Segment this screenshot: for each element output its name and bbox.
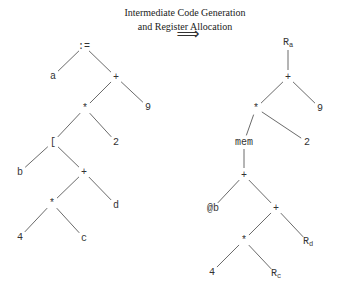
tree-edge — [218, 180, 239, 203]
tree-edge — [57, 208, 80, 233]
tree-edge — [246, 115, 253, 136]
tree-edge — [89, 51, 111, 72]
left-tree-node: b — [17, 167, 23, 178]
right-tree-node: 4 — [209, 267, 215, 278]
left-tree-node: c — [81, 233, 87, 244]
tree-edge — [58, 113, 80, 137]
left-tree-node: + — [113, 72, 119, 83]
tree-edge — [249, 213, 271, 235]
left-tree-node: 4 — [17, 232, 23, 243]
right-tree-node: Ra — [283, 37, 293, 49]
left-tree-node: * — [82, 103, 88, 114]
left-tree-node: [ — [50, 137, 56, 148]
tree-edge — [262, 112, 301, 138]
left-tree-node: 2 — [113, 137, 119, 148]
tree-edge — [293, 82, 315, 103]
right-tree-node: @b — [207, 203, 219, 214]
tree-edge — [58, 51, 79, 71]
right-tree-node: + — [273, 203, 279, 214]
tree-edge — [58, 147, 79, 167]
tree-edge — [25, 147, 48, 168]
left-tree-node: d — [113, 200, 119, 211]
left-tree-node: := — [78, 41, 90, 52]
right-tree-node: 9 — [317, 103, 323, 114]
tree-edge — [90, 113, 112, 137]
tree-edge — [90, 82, 111, 103]
left-tree-node: * — [49, 198, 55, 209]
tree-edge — [25, 208, 47, 232]
right-tree-node: mem — [235, 137, 253, 148]
left-tree-node: 9 — [145, 102, 151, 113]
tree-edge — [57, 177, 79, 198]
right-tree-node: Rc — [271, 268, 281, 280]
left-tree-node: + — [81, 167, 87, 178]
tree-edge — [121, 82, 143, 102]
right-tree-node: + — [285, 72, 291, 83]
right-tree-node: * — [253, 103, 259, 114]
left-tree-node: a — [50, 71, 56, 82]
tree-edge — [261, 82, 283, 103]
tree-edge — [249, 180, 271, 203]
right-tree-node: * — [241, 235, 247, 246]
right-tree-node: + — [241, 170, 247, 181]
right-tree-node: 2 — [304, 137, 310, 148]
right-tree-node: Rd — [303, 236, 313, 248]
tree-edge — [249, 245, 271, 269]
tree-edge — [281, 213, 303, 237]
tree-edge — [217, 245, 239, 267]
tree-edge — [89, 177, 111, 200]
